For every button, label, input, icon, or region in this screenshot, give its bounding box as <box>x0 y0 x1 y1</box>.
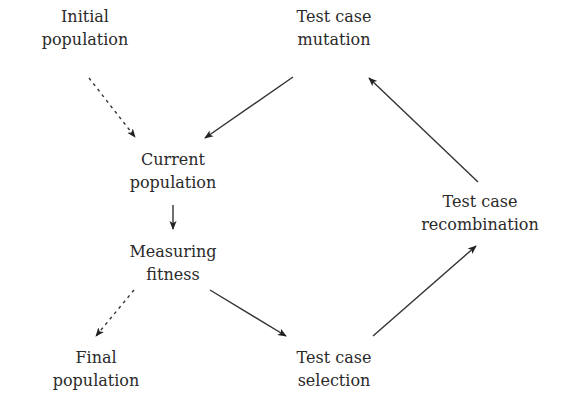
node-current-population: Current population <box>130 148 217 194</box>
arrow-mutation-to-current <box>205 77 293 138</box>
node-label-line1: Test case <box>421 190 539 213</box>
arrow-fitness-to-final <box>96 290 134 336</box>
node-label-line2: fitness <box>129 263 216 286</box>
arrow-selection-to-recombination <box>373 246 476 336</box>
node-label-line1: Current <box>130 148 217 171</box>
node-label-line2: population <box>42 28 129 51</box>
node-label-line1: Final <box>53 346 140 369</box>
node-label-line1: Initial <box>42 5 129 28</box>
node-label-line2: population <box>130 171 217 194</box>
node-measuring-fitness: Measuring fitness <box>129 240 216 286</box>
diagram-canvas: Initial population Test case mutation Cu… <box>0 0 573 406</box>
node-label-line2: mutation <box>297 28 372 51</box>
arrow-fitness-to-selection <box>210 290 286 336</box>
node-test-case-recombination: Test case recombination <box>421 190 539 236</box>
arrow-recombination-to-mutation <box>369 78 478 182</box>
node-test-case-selection: Test case selection <box>297 346 372 392</box>
node-label-line2: recombination <box>421 213 539 236</box>
node-label-line1: Test case <box>297 346 372 369</box>
node-final-population: Final population <box>53 346 140 392</box>
node-label-line1: Test case <box>297 5 372 28</box>
node-label-line2: selection <box>297 369 372 392</box>
node-label-line2: population <box>53 369 140 392</box>
arrow-initial-to-current <box>89 78 135 137</box>
node-initial-population: Initial population <box>42 5 129 51</box>
node-test-case-mutation: Test case mutation <box>297 5 372 51</box>
node-label-line1: Measuring <box>129 240 216 263</box>
